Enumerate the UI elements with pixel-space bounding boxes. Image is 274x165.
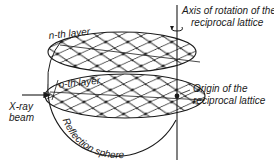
axis-label-line1: Axis of rotation of the [182, 5, 274, 16]
origin-label-line2: reciprocal lattice [193, 95, 265, 106]
origin-label-line1: Origin of the [193, 83, 247, 94]
rotation-arrow-icon [170, 26, 182, 31]
xray-label-line2: beam [9, 112, 34, 123]
reciprocal-lattice-diagram: Reflection sphere Axis of rotation of th… [0, 0, 274, 165]
xray-label-line1: X-ray [9, 101, 33, 112]
axis-label-line2: reciprocal lattice [191, 17, 263, 28]
